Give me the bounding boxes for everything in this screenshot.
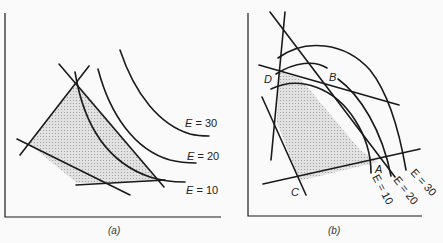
panel-a: E = 30 E = 20 E = 10 (a) <box>5 13 221 236</box>
panel-b-label-e10: E = 10 <box>370 172 396 206</box>
panel-b-vertex-d: D <box>264 73 272 85</box>
panel-a-label-e10: E = 10 <box>186 184 218 196</box>
panel-b-vertex-b: B <box>329 71 336 83</box>
panel-b-caption: (b) <box>328 225 340 236</box>
panel-a-feasible-region-fill <box>29 83 160 183</box>
panel-a-label-e30: E = 30 <box>185 117 217 129</box>
panel-b-vertex-c: C <box>291 186 299 198</box>
panel-a-caption: (a) <box>108 225 120 236</box>
diagram-canvas: E = 30 E = 20 E = 10 (a) D B A C E = 10 … <box>0 0 443 243</box>
panel-b: D B A C E = 10 E = 20 E = 30 (b) <box>248 12 439 236</box>
panel-a-label-e20: E = 20 <box>187 150 219 162</box>
